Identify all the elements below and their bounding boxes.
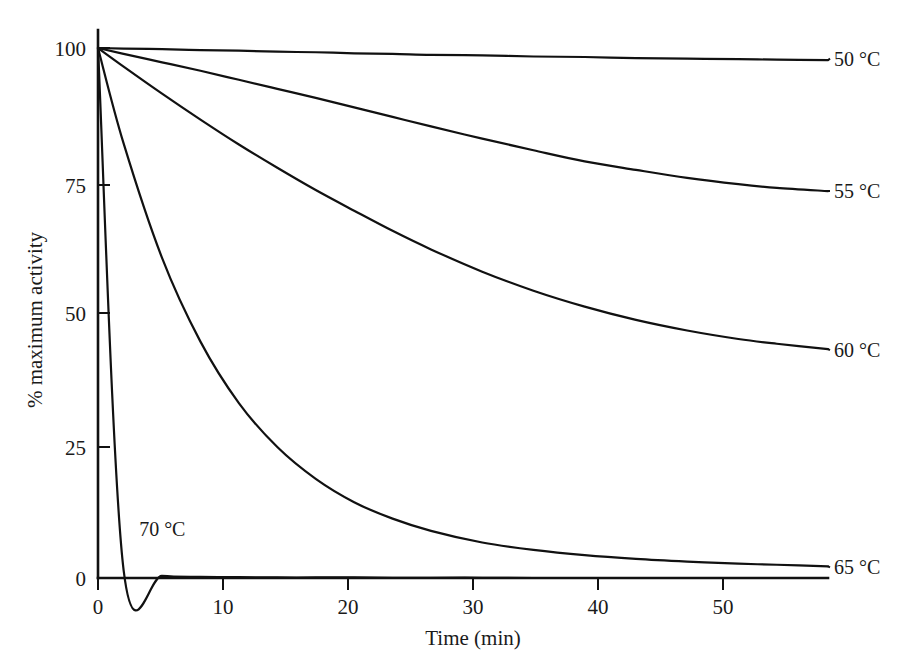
x-tick-label-0: 0 — [93, 595, 104, 619]
y-tick-label-25: 25 — [65, 436, 86, 460]
y-tick-label-0: 0 — [76, 567, 87, 591]
series-label-70c: 70 °C — [139, 518, 185, 540]
x-tick-label-50: 50 — [713, 595, 734, 619]
thermal-inactivation-chart: 100 75 50 25 0 0 10 20 30 40 50 Time (mi… — [0, 0, 908, 652]
series-label-60c: 60 °C — [834, 339, 880, 361]
y-tick-label-75: 75 — [65, 174, 86, 198]
x-tick-label-30: 30 — [463, 595, 484, 619]
y-tick-label-100: 100 — [55, 37, 87, 61]
y-tick-label-50: 50 — [65, 302, 86, 326]
y-axis-title: % maximum activity — [23, 231, 47, 408]
data-curves — [98, 48, 828, 610]
leader-line-65c — [828, 566, 830, 567]
chart-canvas: 100 75 50 25 0 0 10 20 30 40 50 Time (mi… — [0, 0, 908, 652]
curve-55c — [98, 48, 828, 191]
curve-60c — [98, 48, 828, 349]
series-label-50c: 50 °C — [834, 48, 880, 70]
series-label-55c: 55 °C — [834, 180, 880, 202]
curve-70c — [98, 48, 828, 610]
x-axis-title: Time (min) — [425, 626, 520, 650]
x-tick-label-20: 20 — [338, 595, 359, 619]
leader-line-50c — [828, 59, 830, 61]
x-tick-marks — [98, 578, 723, 590]
x-tick-label-10: 10 — [213, 595, 234, 619]
series-label-65c: 65 °C — [834, 556, 880, 578]
curve-50c — [98, 48, 828, 60]
curve-65c — [98, 48, 828, 566]
leader-line-60c — [828, 349, 830, 350]
x-tick-label-40: 40 — [588, 595, 609, 619]
series-labels: 50 °C55 °C60 °C65 °C70 °C — [139, 48, 880, 579]
